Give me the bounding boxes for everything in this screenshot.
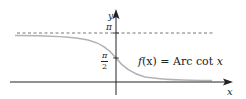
function-variable: x (217, 55, 223, 68)
pi-tick-label: π (106, 23, 112, 32)
half-pi-tick-label: π 2 (101, 52, 108, 71)
function-label: f(x) = Arc cot x (138, 56, 223, 67)
plot-canvas (0, 0, 246, 99)
y-axis-label: y (108, 12, 113, 21)
arccot-graph: y π π 2 x f(x) = Arc cot x (0, 0, 246, 99)
half-pi-numerator: π (101, 52, 108, 62)
x-axis-label: x (227, 87, 233, 97)
half-pi-denominator: 2 (101, 62, 108, 71)
function-body: (x) = Arc cot (142, 55, 217, 68)
